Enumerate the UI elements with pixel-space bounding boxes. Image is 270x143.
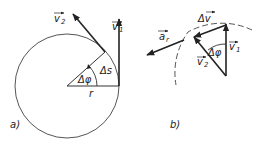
svg-text:Δv: Δv (197, 13, 212, 24)
caption-b: b) (170, 119, 180, 130)
label-delta-phi: Δφ (77, 74, 92, 85)
label-v1: v 1 (112, 21, 123, 34)
svg-text:v: v (54, 13, 61, 24)
svg-text:a: a (159, 31, 165, 42)
label-radius: r (89, 88, 94, 99)
svg-text:v: v (229, 41, 236, 52)
svg-text:r: r (166, 36, 170, 44)
panel-a: v 2 v 1 Δs Δφ r a) (10, 13, 123, 138)
svg-text:1: 1 (236, 46, 240, 54)
panel-b: Δv a r v 1 Δφ v 2 b) (147, 12, 252, 130)
svg-text:v: v (112, 21, 119, 32)
label-a-r: a r (158, 31, 170, 44)
svg-text:v: v (197, 56, 204, 67)
label-delta-s: Δs (99, 65, 112, 76)
svg-text:2: 2 (61, 18, 66, 26)
svg-text:2: 2 (204, 61, 209, 69)
circular-motion-diagram: v 2 v 1 Δs Δφ r a) Δv a (0, 0, 270, 143)
label-v2: v 2 (54, 13, 66, 26)
label-delta-phi: Δφ (207, 47, 222, 58)
svg-text:1: 1 (119, 26, 123, 34)
caption-a: a) (10, 119, 20, 130)
label-delta-v: Δv (197, 12, 215, 24)
v2-arrow-icon (73, 14, 105, 52)
label-v1: v 1 (229, 41, 240, 54)
